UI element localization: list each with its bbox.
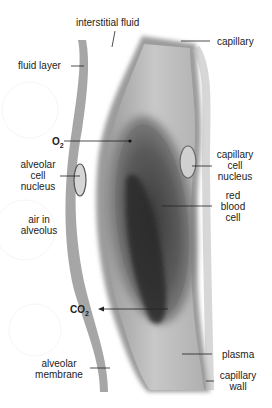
co2-subscript: 2 xyxy=(85,310,89,317)
capillary-cell-nucleus xyxy=(180,146,196,178)
label-line: blood xyxy=(216,201,250,212)
label-line: cell xyxy=(216,212,250,223)
label-line: cell xyxy=(212,160,258,171)
label-capillary-cell-nucleus: capillary cell nucleus xyxy=(212,149,258,182)
co2-arrowhead xyxy=(98,307,104,312)
label-plasma: plasma xyxy=(222,349,254,360)
label-alveolar-cell-nucleus: alveolar cell nucleus xyxy=(16,159,60,192)
label-line: air in xyxy=(18,214,60,225)
label-fluid-layer: fluid layer xyxy=(18,60,61,71)
label-line: cell xyxy=(16,170,60,181)
label-line: membrane xyxy=(32,369,86,380)
label-o2: O2 xyxy=(52,136,64,151)
label-air-in-alveolus: air in alveolus xyxy=(18,214,60,236)
label-line: alveolar xyxy=(32,358,86,369)
co2-text: CO xyxy=(70,304,85,315)
label-interstitial-fluid: interstitial fluid xyxy=(76,17,139,28)
label-line: alveolar xyxy=(16,159,60,170)
label-alveolar-membrane: alveolar membrane xyxy=(32,358,86,380)
label-line: red xyxy=(216,190,250,201)
label-line: nucleus xyxy=(16,181,60,192)
label-line: wall xyxy=(217,381,259,392)
label-capillary-wall: capillary wall xyxy=(217,370,259,392)
label-red-blood-cell: red blood cell xyxy=(216,190,250,223)
alveolar-cell-nucleus xyxy=(74,164,86,196)
o2-dot xyxy=(128,139,131,142)
label-line: capillary xyxy=(217,370,259,381)
o2-text: O xyxy=(52,136,60,147)
label-co2: CO2 xyxy=(70,304,89,319)
diagram-canvas: interstitial fluid capillary fluid layer… xyxy=(0,0,272,408)
label-line: nucleus xyxy=(212,171,258,182)
label-capillary: capillary xyxy=(217,36,254,47)
label-line: alveolus xyxy=(18,225,60,236)
o2-subscript: 2 xyxy=(60,142,64,149)
label-line: capillary xyxy=(212,149,258,160)
